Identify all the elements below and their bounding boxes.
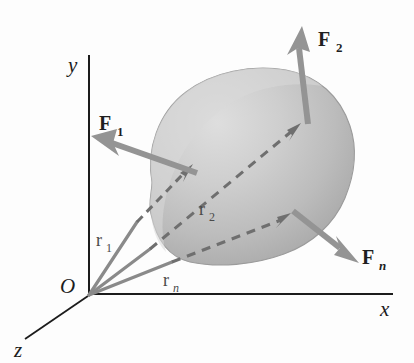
x-axis-label: x	[379, 297, 390, 321]
r1-subscript: 1	[106, 241, 112, 255]
F1-subscript: 1	[117, 124, 124, 139]
Fn-subscript: n	[379, 258, 386, 273]
z-axis-label: z	[13, 338, 22, 362]
rn-label: r	[163, 270, 169, 290]
r2-label: r	[199, 199, 205, 219]
diagram-canvas: y x z O r 1 r 2 r n	[0, 0, 414, 363]
F2-label: F	[318, 28, 330, 50]
r1-label: r	[96, 230, 102, 250]
rn-subscript: n	[173, 281, 179, 295]
F1-label: F	[99, 112, 111, 134]
r2-subscript: 2	[209, 210, 215, 224]
F2-subscript: 2	[336, 40, 343, 55]
y-axis-label: y	[66, 53, 78, 77]
origin-label: O	[60, 274, 75, 298]
Fn-label: F	[362, 246, 374, 268]
physics-diagram-figure: y x z O r 1 r 2 r n	[0, 0, 414, 363]
r2-solid-segment	[89, 249, 150, 295]
z-axis-line	[25, 296, 88, 339]
